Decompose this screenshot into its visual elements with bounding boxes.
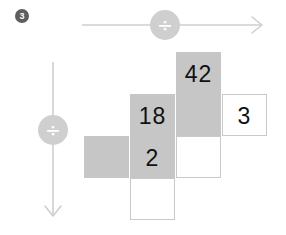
grid-cell-value: 42 <box>176 52 221 94</box>
grid-cell-empty[interactable] <box>84 136 129 178</box>
grid-cell-value: 2 <box>130 136 175 178</box>
worksheet-problem: 3 ÷ ÷ 421832 <box>0 0 286 235</box>
divide-icon-horizontal: ÷ <box>150 10 180 40</box>
problem-number-badge: 3 <box>15 9 29 23</box>
grid-cell-empty[interactable] <box>130 178 175 220</box>
grid-cell-empty[interactable] <box>176 94 221 136</box>
grid-cell-value: 3 <box>222 94 267 136</box>
grid-cell-value: 18 <box>130 94 175 136</box>
divide-icon-vertical: ÷ <box>38 115 68 145</box>
grid-cell-empty[interactable] <box>176 136 221 178</box>
